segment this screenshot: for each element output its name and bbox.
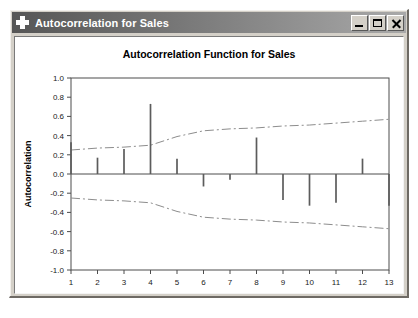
- autocorrelation-chart: 1.00.80.60.40.20.0-0.2-0.4-0.6-0.8-1.012…: [15, 37, 404, 294]
- y-tick-label: -0.6: [50, 228, 64, 237]
- x-tick-label: 1: [69, 278, 74, 287]
- x-tick-label: 3: [122, 278, 127, 287]
- maximize-button[interactable]: [369, 15, 386, 31]
- y-tick-label: -0.8: [50, 247, 64, 256]
- x-axis-title: Lag: [222, 291, 238, 294]
- y-tick-label: 1.0: [53, 74, 65, 83]
- x-tick-label: 5: [175, 278, 180, 287]
- y-axis-title: Autocorrelation: [23, 140, 33, 207]
- x-tick-label: 9: [281, 278, 286, 287]
- application-window: Autocorrelation for Sales Autocorrelatio…: [9, 9, 409, 298]
- y-tick-label: 0.2: [53, 151, 65, 160]
- x-tick-label: 13: [385, 278, 394, 287]
- x-tick-label: 8: [254, 278, 259, 287]
- window-title: Autocorrelation for Sales: [35, 17, 350, 29]
- x-tick-label: 12: [358, 278, 367, 287]
- y-tick-label: -0.4: [50, 208, 64, 217]
- y-tick-label: -0.2: [50, 189, 64, 198]
- minimize-button[interactable]: [351, 15, 368, 31]
- y-tick-label: 0.6: [53, 112, 65, 121]
- y-tick-label: 0.4: [53, 132, 65, 141]
- x-tick-label: 7: [228, 278, 233, 287]
- x-tick-label: 2: [95, 278, 100, 287]
- y-tick-label: 0.0: [53, 170, 65, 179]
- x-tick-label: 4: [148, 278, 153, 287]
- x-tick-label: 6: [201, 278, 206, 287]
- window-title-bar[interactable]: Autocorrelation for Sales: [12, 12, 406, 33]
- x-tick-label: 11: [332, 278, 341, 287]
- y-tick-label: 0.8: [53, 93, 65, 102]
- x-tick-label: 10: [305, 278, 314, 287]
- y-tick-label: -1.0: [50, 266, 64, 275]
- plus-icon: [16, 16, 29, 29]
- close-button[interactable]: [387, 15, 404, 31]
- chart-client-area: Autocorrelation Function for Sales 1.00.…: [14, 36, 404, 294]
